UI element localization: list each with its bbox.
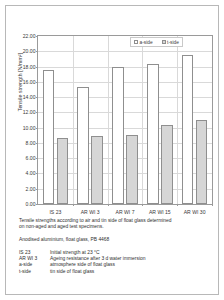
bar-t-side-AR-WI-7	[126, 135, 138, 204]
bar-chart: Tensile strength [N/mm²] 0.002.004.006.0…	[6, 9, 220, 214]
x-tick-label-AR-WI-15: AR WI 15	[149, 209, 171, 215]
y-tick-label: 16.00	[10, 79, 36, 85]
y-tick-mark	[36, 82, 38, 83]
category-separator	[73, 36, 74, 204]
legend-label-a-side: a-side	[140, 40, 153, 45]
y-tick-mark	[36, 112, 38, 113]
y-tick-label: 12.00	[10, 109, 36, 115]
y-tick-mark	[36, 67, 38, 68]
legend-entry-a-side: a-side	[134, 40, 153, 45]
y-tick-mark	[36, 128, 38, 129]
square-swatch-gray-icon	[162, 40, 166, 44]
y-tick-label: 6.00	[10, 155, 36, 161]
y-tick-label: 14.00	[10, 94, 36, 100]
bar-a-side-IS-23	[43, 70, 55, 204]
bar-a-side-AR-WI-15	[147, 64, 159, 205]
figure-panel: Tensile strength [N/mm²] 0.002.004.006.0…	[5, 5, 219, 295]
x-tick-label-AR-WI-7: AR WI 7	[116, 209, 135, 215]
y-tick-label: 8.00	[10, 140, 36, 146]
legend-entry-t-side: t-side	[162, 40, 179, 45]
x-tick-mark	[142, 204, 143, 206]
square-swatch-white-icon	[134, 40, 138, 44]
y-tick-mark	[36, 97, 38, 98]
bar-a-side-AR-WI-30	[182, 55, 194, 204]
caption-line-2: on non-aged and aged test specimens.	[19, 224, 211, 230]
x-tick-label-IS-23: IS 23	[49, 209, 61, 215]
plot-area: 0.002.004.006.008.0010.0012.0014.0016.00…	[37, 35, 213, 205]
gridline	[38, 51, 212, 52]
bar-t-side-AR-WI-15	[161, 125, 173, 204]
y-tick-mark	[36, 36, 38, 37]
caption-definitions: IS 23 Initial strength at 23 °C AR WI 3 …	[19, 250, 211, 276]
bar-a-side-AR-WI-7	[112, 67, 124, 204]
y-tick-mark	[36, 158, 38, 159]
caption-material: Anodised aluminium, float glass, PB 4468	[19, 237, 211, 243]
y-tick-label: 10.00	[10, 125, 36, 131]
bar-t-side-AR-WI-3	[91, 136, 103, 204]
definition-value: tin side of float glass	[50, 269, 211, 275]
bar-t-side-IS-23	[57, 138, 69, 204]
x-tick-mark	[212, 204, 213, 206]
definition-key: t-side	[19, 269, 50, 275]
chart-legend: a-side t-side	[130, 37, 183, 47]
y-tick-mark	[36, 189, 38, 190]
y-tick-label: 2.00	[10, 186, 36, 192]
y-tick-mark	[36, 173, 38, 174]
y-tick-label: 20.00	[10, 48, 36, 54]
x-tick-label-AR-WI-3: AR WI 3	[81, 209, 100, 215]
category-separator	[177, 36, 178, 204]
bar-a-side-AR-WI-3	[77, 87, 89, 204]
y-tick-mark	[36, 204, 38, 205]
x-tick-mark	[73, 204, 74, 206]
definition-row: t-side tin side of float glass	[19, 269, 211, 275]
caption: Tensile strengths according to air and t…	[19, 218, 211, 275]
category-separator	[142, 36, 143, 204]
y-tick-mark	[36, 143, 38, 144]
bar-t-side-AR-WI-30	[196, 120, 208, 204]
y-tick-label: 18.00	[10, 64, 36, 70]
x-tick-mark	[177, 204, 178, 206]
legend-label-t-side: t-side	[167, 40, 179, 45]
y-tick-label: 4.00	[10, 170, 36, 176]
y-tick-label: 22.00	[10, 33, 36, 39]
y-tick-label: 0.00	[10, 201, 36, 207]
category-separator	[108, 36, 109, 204]
x-tick-mark	[108, 204, 109, 206]
x-tick-label-AR-WI-30: AR WI 30	[184, 209, 206, 215]
y-tick-mark	[36, 51, 38, 52]
